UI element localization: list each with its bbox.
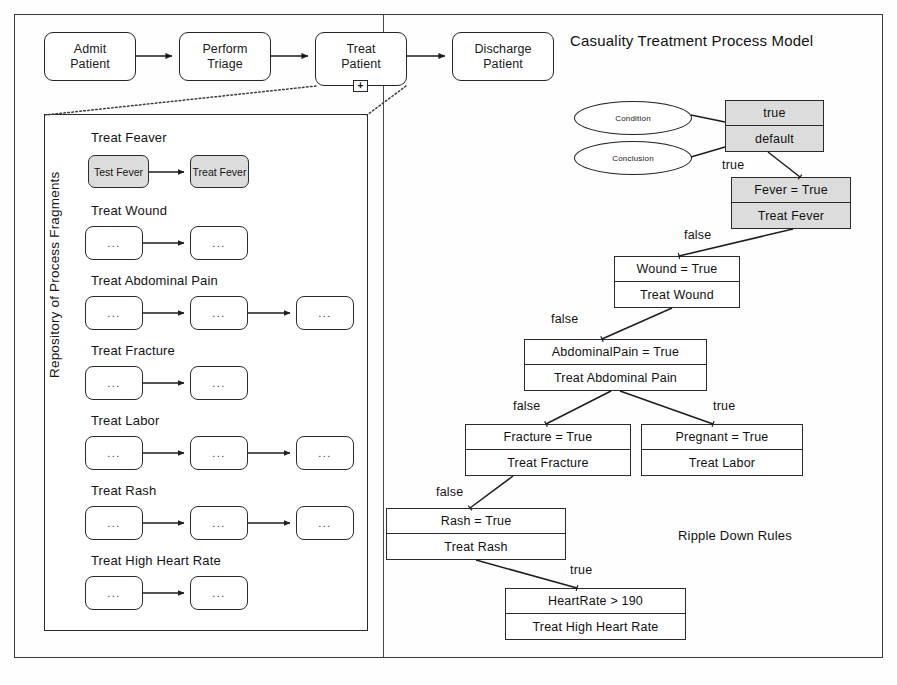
rule-node-pregnant[interactable]: Pregnant = True Treat Labor <box>641 424 803 476</box>
rule-condition: Fracture = True <box>466 425 630 450</box>
bpmn-task-discharge-line1: Discharge <box>474 42 531 57</box>
fragment-task-line1: ... <box>107 587 121 599</box>
bpmn-task-triage-line2: Triage <box>202 57 247 72</box>
fragment-task[interactable]: ... <box>190 436 248 470</box>
fragment-task-line1: ... <box>318 447 332 459</box>
fragment-task[interactable]: ... <box>190 366 248 400</box>
fragment-title-abdominal-pain: Treat Abdominal Pain <box>91 273 218 288</box>
fragment-task-line1: ... <box>318 307 332 319</box>
rule-node-high-heart-rate[interactable]: HeartRate > 190 Treat High Heart Rate <box>505 588 686 640</box>
fragment-task[interactable]: ... <box>85 576 143 610</box>
fragment-task-line1: ... <box>212 237 226 249</box>
rule-conclusion: default <box>726 126 823 151</box>
rule-conclusion: Treat Labor <box>642 450 802 475</box>
rule-conclusion: Treat High Heart Rate <box>506 614 685 639</box>
fragment-task-line2: Fever <box>220 166 247 178</box>
fragment-task[interactable]: Test Fever <box>88 155 149 188</box>
fragment-task[interactable]: ... <box>85 506 143 540</box>
ripple-down-rules-caption: Ripple Down Rules <box>678 528 792 543</box>
rule-condition: Fever = True <box>732 178 850 203</box>
plus-icon: + <box>358 81 364 91</box>
fragment-task[interactable]: ... <box>85 226 143 260</box>
legend-condition-label: Condition <box>615 114 651 123</box>
edge-label-root-true: true <box>722 158 744 172</box>
edge-label-wound-false: false <box>551 312 578 326</box>
rule-node-fracture[interactable]: Fracture = True Treat Fracture <box>465 424 631 476</box>
rule-node-root[interactable]: true default <box>725 100 824 152</box>
fragment-task-line1: ... <box>107 447 121 459</box>
bpmn-task-discharge-line2: Patient <box>474 57 531 72</box>
fragment-task[interactable]: ... <box>296 436 354 470</box>
fragment-task-line1: ... <box>107 237 121 249</box>
legend-condition-ellipse: Condition <box>574 101 692 135</box>
bpmn-task-treat-line1: Treat <box>341 42 381 57</box>
fragment-task-line1: ... <box>318 517 332 529</box>
edge-label-fever-false: false <box>684 228 711 242</box>
rule-condition: Rash = True <box>387 509 565 534</box>
fragment-title-wound: Treat Wound <box>91 203 167 218</box>
rule-conclusion: Treat Rash <box>387 534 565 559</box>
fragment-title-fracture: Treat Fracture <box>91 343 175 358</box>
subprocess-expand-marker[interactable]: + <box>353 80 368 92</box>
fragment-task[interactable]: ... <box>85 296 143 330</box>
rule-node-abdominal-pain[interactable]: AbdominalPain = True Treat Abdominal Pai… <box>524 339 707 391</box>
edge-label-rash-true: true <box>570 563 592 577</box>
fragment-task[interactable]: ... <box>85 436 143 470</box>
fragment-task-line1: ... <box>212 377 226 389</box>
rule-node-fever[interactable]: Fever = True Treat Fever <box>731 177 851 229</box>
panel-divider <box>383 15 384 657</box>
fragment-task-line1: Treat <box>193 166 217 178</box>
rule-condition: Wound = True <box>615 257 739 282</box>
fragment-title-feaver: Treat Feaver <box>91 130 167 145</box>
fragment-task-line1: ... <box>107 377 121 389</box>
edge-label-fracture-false: false <box>436 485 463 499</box>
legend-conclusion-label: Conclusion <box>612 154 654 163</box>
rule-condition: Pregnant = True <box>642 425 802 450</box>
bpmn-task-treat-line2: Patient <box>341 57 381 72</box>
fragment-task-line1: Test <box>94 166 113 178</box>
fragment-task-line1: ... <box>107 307 121 319</box>
model-title: Casuality Treatment Process Model <box>570 32 813 49</box>
rule-condition: true <box>726 101 823 126</box>
edge-label-abdominal-false: false <box>513 399 540 413</box>
bpmn-task-admit-line1: Admit <box>70 42 110 57</box>
rule-condition: HeartRate > 190 <box>506 589 685 614</box>
fragment-task[interactable]: ... <box>190 226 248 260</box>
repository-label: Repository of Process Fragments <box>47 128 62 378</box>
fragment-task[interactable]: ... <box>190 506 248 540</box>
fragment-task-line1: ... <box>107 517 121 529</box>
fragment-title-high-heart-rate: Treat High Heart Rate <box>91 553 221 568</box>
bpmn-task-triage-line1: Perform <box>202 42 247 57</box>
fragment-title-rash: Treat Rash <box>91 483 156 498</box>
rule-conclusion: Treat Wound <box>615 282 739 307</box>
legend-conclusion-ellipse: Conclusion <box>574 141 692 175</box>
fragment-task-line1: ... <box>212 447 226 459</box>
bpmn-task-admit-line2: Patient <box>70 57 110 72</box>
fragment-task[interactable]: ... <box>85 366 143 400</box>
fragment-task[interactable]: ... <box>190 296 248 330</box>
bpmn-task-treat-patient[interactable]: Treat Patient <box>315 32 407 86</box>
rule-node-rash[interactable]: Rash = True Treat Rash <box>386 508 566 560</box>
fragment-task-line1: ... <box>212 307 226 319</box>
fragment-task-line1: ... <box>212 517 226 529</box>
bpmn-task-perform-triage[interactable]: Perform Triage <box>179 32 271 81</box>
rule-conclusion: Treat Abdominal Pain <box>525 365 706 390</box>
rule-conclusion: Treat Fracture <box>466 450 630 475</box>
edge-label-abdominal-true: true <box>713 399 735 413</box>
rule-condition: AbdominalPain = True <box>525 340 706 365</box>
rule-node-wound[interactable]: Wound = True Treat Wound <box>614 256 740 308</box>
fragment-task[interactable]: ... <box>190 576 248 610</box>
diagram-canvas: Admit Patient Perform Triage Treat Patie… <box>0 0 897 685</box>
fragment-task-line2: Fever <box>116 166 143 178</box>
fragment-title-labor: Treat Labor <box>91 413 159 428</box>
fragment-task[interactable]: ... <box>296 506 354 540</box>
bpmn-task-discharge-patient[interactable]: Discharge Patient <box>452 32 554 81</box>
fragment-task[interactable]: Treat Fever <box>190 155 249 188</box>
bpmn-task-admit[interactable]: Admit Patient <box>44 32 136 81</box>
fragment-task[interactable]: ... <box>296 296 354 330</box>
rule-conclusion: Treat Fever <box>732 203 850 228</box>
fragment-task-line1: ... <box>212 587 226 599</box>
